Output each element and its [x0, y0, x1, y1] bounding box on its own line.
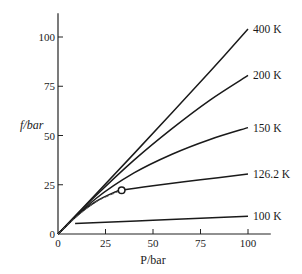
y-axis-title: f/bar: [20, 118, 44, 132]
isotherm-curve-400-k: [58, 29, 248, 234]
critical-point-marker: [118, 187, 125, 194]
x-tick-label: 0: [55, 237, 61, 249]
curve-label: 100 K: [253, 210, 282, 222]
curves: [58, 29, 248, 234]
isotherm-curve-200-k: [58, 75, 248, 234]
curve-labels: 400 K200 K150 K126.2 K100 K: [253, 23, 291, 222]
x-tick-label: 75: [195, 237, 207, 249]
dashed-saturation-curve: [58, 190, 122, 234]
fugacity-pressure-chart: 02550751000255075100 400 K200 K150 K126.…: [0, 0, 302, 274]
y-tick-label: 50: [44, 130, 56, 142]
y-tick-label: 25: [44, 179, 56, 191]
x-tick-label: 50: [148, 237, 160, 249]
curve-label: 200 K: [253, 69, 282, 81]
curve-label: 126.2 K: [253, 168, 291, 180]
y-tick-label: 75: [44, 80, 56, 92]
x-axis-title: P/bar: [140, 253, 165, 267]
curve-label: 400 K: [253, 23, 282, 35]
curve-label: 150 K: [253, 122, 282, 134]
isotherm-curve-100-k: [75, 216, 248, 223]
y-tick-label: 100: [39, 31, 56, 43]
x-tick-label: 25: [100, 237, 112, 249]
x-tick-label: 100: [240, 237, 257, 249]
